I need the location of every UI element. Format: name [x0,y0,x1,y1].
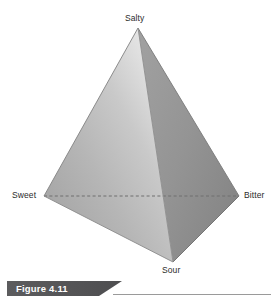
figure-page: Salty Sweet Bitter Sour Figure 4.11 [0,0,279,302]
figure-caption-label: Figure 4.11 [16,283,68,295]
vertex-label-sour: Sour [162,265,180,275]
figure-caption-bar: Figure 4.11 [7,281,122,296]
vertex-label-salty: Salty [125,13,144,23]
vertex-label-bitter: Bitter [244,190,264,200]
caption-rule [113,294,271,295]
tetrahedron-diagram [0,0,279,302]
vertex-label-sweet: Sweet [12,190,36,200]
